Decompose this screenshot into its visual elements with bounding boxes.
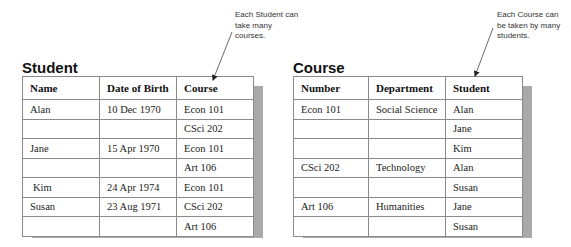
cell-name [23, 158, 100, 178]
student-table-header-row: Name Date of Birth Course [23, 77, 254, 100]
cell-student: Jane [446, 119, 523, 139]
student-annotation-line: Each Student can [235, 10, 298, 21]
cell-course: CSci 202 [177, 197, 254, 217]
table-row: Susan [294, 217, 523, 237]
cell-name [23, 217, 100, 237]
course-annotation-line: be taken by many [497, 21, 560, 32]
course-callout-arrow-icon [475, 28, 493, 76]
cell-course: Econ 101 [177, 100, 254, 120]
cell-number [294, 178, 369, 198]
cell-name [23, 119, 100, 139]
student-annotation: Each Student can take many courses. [235, 10, 298, 42]
student-table: Name Date of Birth Course Alan 10 Dec 19… [22, 76, 254, 237]
cell-course: CSci 202 [177, 119, 254, 139]
table-row: Art 106 [23, 158, 254, 178]
cell-course: Art 106 [177, 217, 254, 237]
cell-number [294, 217, 369, 237]
cell-course: Art 106 [177, 158, 254, 178]
cell-date-of-birth: 10 Dec 1970 [100, 100, 177, 120]
cell-date-of-birth: 15 Apr 1970 [100, 139, 177, 159]
course-annotation-line: Each Course can [497, 10, 560, 21]
student-annotation-line: courses. [235, 31, 298, 42]
column-header-student: Student [446, 77, 523, 100]
table-row: Susan 23 Aug 1971 CSci 202 [23, 197, 254, 217]
cell-department [369, 178, 446, 198]
student-callout-arrow-icon [213, 32, 232, 80]
cell-student: Jane [446, 197, 523, 217]
course-annotation: Each Course can be taken by many student… [497, 10, 560, 42]
cell-course: Econ 101 [177, 178, 254, 198]
cell-department [369, 119, 446, 139]
course-table-header-row: Number Department Student [294, 77, 523, 100]
cell-student: Kim [446, 139, 523, 159]
table-row: CSci 202 Technology Alan [294, 158, 523, 178]
cell-number: Econ 101 [294, 100, 369, 120]
course-annotation-line: students. [497, 31, 560, 42]
student-table-title: Student [22, 60, 78, 76]
table-row: Econ 101 Social Science Alan [294, 100, 523, 120]
cell-student: Susan [446, 178, 523, 198]
cell-number [294, 119, 369, 139]
column-header-name: Name [23, 77, 100, 100]
cell-date-of-birth [100, 119, 177, 139]
course-table-title: Course [293, 60, 345, 76]
table-row: Kim 24 Apr 1974 Econ 101 [23, 178, 254, 198]
cell-department [369, 139, 446, 159]
student-annotation-line: take many [235, 21, 298, 32]
cell-name: Susan [23, 197, 100, 217]
course-table: Number Department Student Econ 101 Socia… [293, 76, 523, 237]
table-row: Art 106 Humanities Jane [294, 197, 523, 217]
column-header-date-of-birth: Date of Birth [100, 77, 177, 100]
cell-number: CSci 202 [294, 158, 369, 178]
cell-department: Technology [369, 158, 446, 178]
table-row: CSci 202 [23, 119, 254, 139]
cell-date-of-birth: 23 Aug 1971 [100, 197, 177, 217]
cell-number: Art 106 [294, 197, 369, 217]
cell-name: Kim [23, 178, 100, 198]
column-header-course: Course [177, 77, 254, 100]
column-header-number: Number [294, 77, 369, 100]
table-row: Kim [294, 139, 523, 159]
column-header-department: Department [369, 77, 446, 100]
cell-name: Jane [23, 139, 100, 159]
cell-date-of-birth [100, 158, 177, 178]
cell-department [369, 217, 446, 237]
cell-date-of-birth [100, 217, 177, 237]
cell-course: Econ 101 [177, 139, 254, 159]
table-row: Jane 15 Apr 1970 Econ 101 [23, 139, 254, 159]
cell-student: Alan [446, 100, 523, 120]
cell-student: Alan [446, 158, 523, 178]
cell-name: Alan [23, 100, 100, 120]
cell-student: Susan [446, 217, 523, 237]
table-row: Jane [294, 119, 523, 139]
cell-number [294, 139, 369, 159]
table-row: Art 106 [23, 217, 254, 237]
table-row: Susan [294, 178, 523, 198]
cell-department: Humanities [369, 197, 446, 217]
cell-department: Social Science [369, 100, 446, 120]
cell-date-of-birth: 24 Apr 1974 [100, 178, 177, 198]
table-row: Alan 10 Dec 1970 Econ 101 [23, 100, 254, 120]
